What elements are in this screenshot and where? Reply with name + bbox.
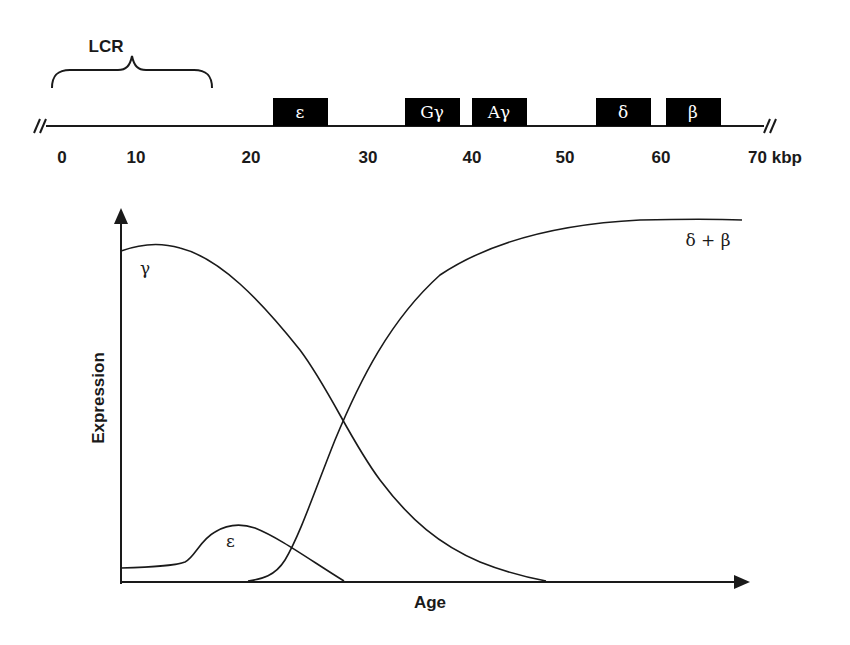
delta-beta-label: δ + β <box>685 230 730 250</box>
left-break-mark <box>34 119 46 133</box>
svg-text:Aγ: Aγ <box>487 102 510 122</box>
right-break-mark <box>764 119 776 133</box>
tick-40: 40 <box>463 148 482 167</box>
gene-g-gamma: Gγ <box>405 98 460 126</box>
tick-60: 60 <box>652 148 671 167</box>
y-axis-arrow-icon <box>114 208 128 224</box>
y-axis-label: Expression <box>89 352 108 444</box>
kbp-axis-labels: 0 10 20 30 40 50 60 70 kbp <box>57 148 802 167</box>
svg-text:Gγ: Gγ <box>420 102 444 122</box>
x-axis-arrow-icon <box>734 575 750 589</box>
gamma-label: γ <box>140 258 150 278</box>
svg-text:δ: δ <box>618 102 628 122</box>
figure-canvas: LCR ε Gγ Aγ δ <box>0 0 850 645</box>
tick-0: 0 <box>57 148 66 167</box>
gene-beta: β <box>666 98 721 126</box>
gene-epsilon: ε <box>273 98 328 126</box>
tick-30: 30 <box>359 148 378 167</box>
expression-plot: Age Expression γ ε δ + β <box>89 208 750 612</box>
gene-delta: δ <box>596 98 651 126</box>
lcr-label: LCR <box>89 37 124 56</box>
tick-20: 20 <box>242 148 261 167</box>
epsilon-label: ε <box>226 531 235 551</box>
svg-text:ε: ε <box>296 102 305 122</box>
lcr-brace <box>52 56 212 88</box>
gamma-curve <box>121 244 546 581</box>
tick-50: 50 <box>556 148 575 167</box>
delta-beta-curve <box>248 219 742 581</box>
svg-text:β: β <box>688 102 698 122</box>
x-axis-label: Age <box>414 593 446 612</box>
gene-a-gamma: Aγ <box>472 98 527 126</box>
tick-70-kbp: 70 kbp <box>748 148 802 167</box>
gene-map: LCR ε Gγ Aγ δ <box>34 37 802 167</box>
tick-10: 10 <box>127 148 146 167</box>
